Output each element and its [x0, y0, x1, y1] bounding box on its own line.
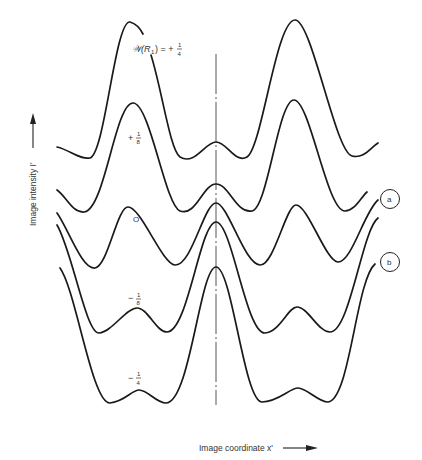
figure-canvas: 𝒲(R 1 ) = + 1 4 + 1 8 O − 1 8 − 1 4 a b	[0, 0, 422, 460]
svg-text:1: 1	[137, 292, 141, 298]
svg-text:8: 8	[137, 300, 141, 306]
svg-text:−: −	[128, 373, 133, 383]
curve-plus-eighth	[57, 100, 367, 212]
x-axis-label: Image coordinate x'	[199, 443, 273, 453]
svg-text:a: a	[387, 195, 392, 204]
svg-text:1: 1	[137, 371, 141, 377]
label-minus-quarter: − 1 4	[128, 371, 141, 386]
curve-plus-quarter	[57, 20, 378, 159]
svg-text:) = +: ) = +	[155, 44, 174, 54]
annotation-b: b	[381, 253, 400, 272]
label-zero: O	[133, 215, 139, 224]
annotation-a: a	[381, 190, 400, 209]
label-plus-quarter: 𝒲(R 1 ) = + 1 4	[132, 42, 182, 57]
right-arrow-icon	[306, 445, 318, 451]
svg-text:1: 1	[178, 42, 182, 48]
svg-text:−: −	[128, 293, 133, 303]
svg-text:4: 4	[178, 51, 182, 57]
label-plus-eighth: + 1 8	[128, 131, 141, 145]
svg-text:b: b	[387, 258, 392, 267]
y-axis: Image intensity I'	[28, 113, 38, 226]
svg-text:𝒲(R: 𝒲(R	[132, 44, 151, 54]
up-arrow-icon	[30, 113, 36, 124]
curve-zero	[57, 200, 378, 268]
x-axis: Image coordinate x'	[199, 443, 318, 453]
svg-text:8: 8	[137, 139, 141, 145]
label-minus-eighth: − 1 8	[128, 292, 141, 306]
svg-text:1: 1	[137, 131, 141, 137]
curve-minus-eighth	[57, 218, 378, 333]
curve-minus-quarter	[60, 264, 375, 403]
svg-text:4: 4	[137, 380, 141, 386]
y-axis-label: Image intensity I'	[28, 162, 38, 226]
svg-text:+: +	[128, 133, 133, 143]
